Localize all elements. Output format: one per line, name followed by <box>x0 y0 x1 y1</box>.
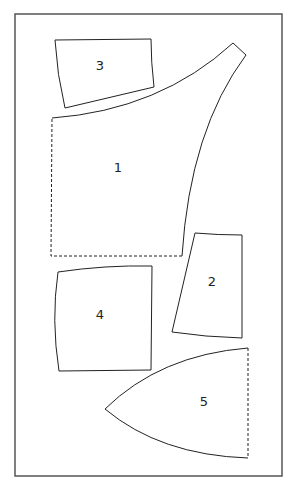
piece-label-4: 4 <box>96 307 104 322</box>
piece-label-3: 3 <box>96 58 104 73</box>
piece-label-1: 1 <box>114 160 122 175</box>
pattern-layout-canvas: 3 1 2 4 5 <box>0 0 296 495</box>
pattern-piece-4: 4 <box>55 266 152 371</box>
piece-label-2: 2 <box>208 274 216 289</box>
piece-label-5: 5 <box>200 394 208 409</box>
